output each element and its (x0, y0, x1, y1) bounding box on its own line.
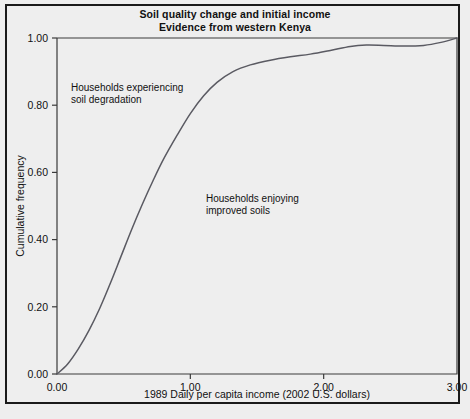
improved-annotation-line1: Households enjoying (206, 193, 299, 204)
degradation-annotation: Households experiencing soil degradation (71, 82, 183, 105)
y-tick-label: 1.00 (28, 32, 49, 44)
improved-annotation: Households enjoying improved soils (206, 193, 299, 216)
y-tick-label: 0.60 (28, 166, 49, 178)
y-axis-ticks (52, 38, 57, 374)
y-axis-tick-labels: 0.000.200.400.600.801.00 (28, 32, 49, 380)
x-tick-label: 3.00 (447, 381, 468, 393)
y-axis-title: Cumulative frequency (14, 154, 26, 256)
improved-annotation-line2: improved soils (206, 205, 270, 216)
chart-figure: Soil quality change and initial income E… (0, 0, 470, 419)
y-tick-label: 0.40 (28, 233, 49, 245)
x-axis-title: 1989 Daily per capita income (2002 U.S. … (144, 388, 370, 400)
x-tick-label: 0.00 (47, 381, 68, 393)
y-tick-label: 0.00 (28, 368, 49, 380)
x-axis-ticks (190, 374, 323, 379)
degradation-annotation-line1: Households experiencing (71, 82, 183, 93)
y-tick-label: 0.80 (28, 99, 49, 111)
degradation-annotation-line2: soil degradation (71, 94, 142, 105)
chart-plot-area: 0.000.200.400.600.801.00 0.001.002.003.0… (0, 0, 470, 419)
y-tick-label: 0.20 (28, 301, 49, 313)
